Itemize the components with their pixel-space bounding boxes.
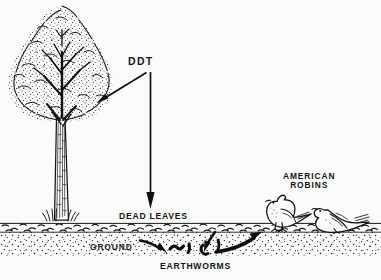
- tree-canopy-stipple: [0, 0, 130, 130]
- label-ground: GROUND: [90, 243, 133, 252]
- tree-illustration: [0, 0, 130, 221]
- label-american-robins-line2: ROBINS: [283, 181, 335, 190]
- label-earthworms: EARTHWORMS: [160, 262, 231, 271]
- arrow-ddt-to-dead-leaves: [146, 72, 154, 209]
- label-american-robins: AMERICAN ROBINS: [283, 172, 335, 190]
- label-ddt: DDT: [128, 56, 153, 67]
- diagram-artwork: [0, 0, 381, 280]
- label-dead-leaves: DEAD LEAVES: [119, 212, 188, 221]
- ddt-food-chain-diagram: DDT DEAD LEAVES GROUND EARTHWORMS AMERIC…: [0, 0, 381, 280]
